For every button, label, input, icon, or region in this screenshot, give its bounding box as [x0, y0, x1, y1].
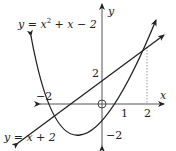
x-axis-label: x: [160, 90, 166, 101]
graph-figure: y = x2 + x − 2 y = x + 2 y x −2 1 2 2 −2: [0, 0, 176, 151]
tick-x-1: 1: [121, 108, 128, 119]
tick-x-2: 2: [144, 108, 151, 119]
tick-y-neg2: −2: [106, 130, 122, 141]
parabola-label: y = x2 + x − 2: [18, 18, 97, 30]
line-label: y = x + 2: [4, 132, 56, 143]
tick-y-2: 2: [92, 68, 99, 79]
y-axis-label: y: [108, 6, 114, 17]
tick-x-neg2: −2: [36, 91, 52, 102]
